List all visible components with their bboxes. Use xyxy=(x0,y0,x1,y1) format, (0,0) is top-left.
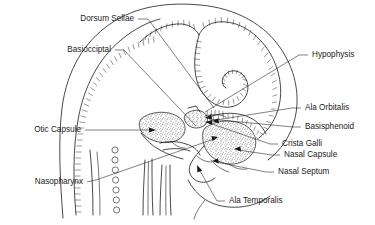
label-nasopharynx: Nasopharynx xyxy=(35,177,83,186)
chondrocranium-figure: Dorsum Sellae Basiocciptal Otic Capsule … xyxy=(0,0,375,225)
leader-ala-orbitalis xyxy=(216,108,301,120)
hypophysis-hatching xyxy=(195,41,247,105)
leader-nasopharynx xyxy=(87,139,214,182)
pharyngeal-processes xyxy=(143,159,171,215)
label-ala-orbitalis: Ala Orbitalis xyxy=(305,103,349,112)
label-ala-temporalis: Ala Temporalis xyxy=(229,196,283,205)
skull-outline xyxy=(60,4,297,218)
label-basisphenoid: Basisphenoid xyxy=(305,122,355,131)
leader-ala-temporalis xyxy=(199,169,225,201)
arrow-ala-temporalis xyxy=(197,165,202,172)
figure-labels: Dorsum Sellae Basiocciptal Otic Capsule … xyxy=(34,14,354,205)
leader-dorsum-sellae xyxy=(138,19,214,108)
label-nasal-capsule: Nasal Capsule xyxy=(284,150,338,159)
label-nasal-septum: Nasal Septum xyxy=(278,167,330,176)
label-otic-capsule: Otic Capsule xyxy=(34,125,81,134)
occipital-tail xyxy=(90,150,100,215)
label-hypophysis: Hypophysis xyxy=(312,50,354,59)
hypophysis-spiral xyxy=(195,35,248,107)
label-crista-galli: Crista Galli xyxy=(282,139,322,148)
leader-hypophysis xyxy=(205,55,308,112)
label-dorsum-sellae: Dorsum Sellae xyxy=(80,14,134,23)
label-basioccipital: Basiocciptal xyxy=(67,45,111,54)
nasal-capsule-mass xyxy=(203,121,256,172)
notochord-column xyxy=(112,147,120,213)
